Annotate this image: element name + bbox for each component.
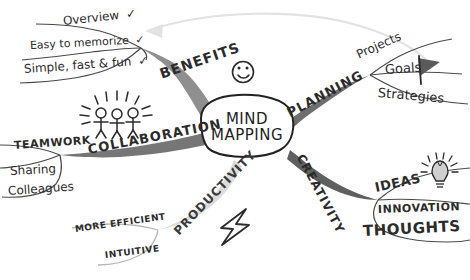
lightning-bolt-icon [221,209,249,245]
branch-benefits [20,24,216,122]
center-line-2: MAPPING [207,128,287,144]
flag-icon [418,56,440,84]
sweep-arrow-icon [145,14,432,66]
branch-collaboration [0,133,206,197]
branch-planning [286,39,468,131]
three-people-icon [80,91,152,139]
center-node-label: MIND MAPPING [207,112,287,144]
branch-productivity [72,160,242,265]
smiley-face-icon [233,62,254,83]
